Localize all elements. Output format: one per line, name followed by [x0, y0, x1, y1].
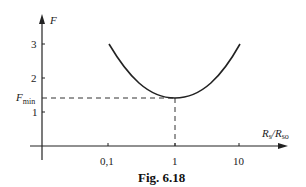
chart: 3 2 1 0,1 1 10 F Rs/Rso Fmin Fig. 6.18	[0, 0, 306, 187]
x-axis-label: Rs/Rso	[261, 127, 289, 141]
y-tick-label-2: 2	[31, 72, 37, 84]
fmin-label: Fmin	[15, 91, 35, 106]
x-tick-label-0.1: 0,1	[100, 155, 114, 167]
noise-figure-curve	[109, 44, 240, 98]
y-tick-label-3: 3	[31, 38, 37, 50]
y-axis-arrow-icon	[39, 14, 45, 24]
x-axis-arrow-icon	[278, 143, 288, 149]
x-tick-label-10: 10	[233, 155, 245, 167]
x-tick-label-1: 1	[172, 155, 178, 167]
y-axis-label: F	[49, 14, 57, 26]
y-tick-label-1: 1	[32, 106, 38, 118]
figure-caption: Fig. 6.18	[138, 170, 186, 185]
